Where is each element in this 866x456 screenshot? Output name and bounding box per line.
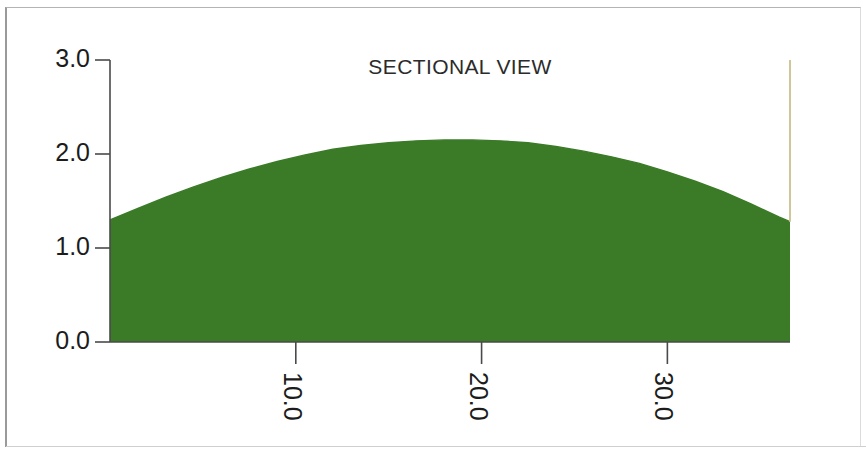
x-axis-tick-labels: 10.020.030.0 — [0, 0, 866, 456]
chart-page: SECTIONAL VIEW 0.01.02.03.0 10.020.030.0 — [0, 0, 866, 456]
x-axis-tick-label: 30.0 — [651, 372, 676, 421]
plot-area: SECTIONAL VIEW 0.01.02.03.0 10.020.030.0 — [0, 0, 866, 456]
x-axis-tick-label: 10.0 — [280, 372, 305, 421]
x-axis-tick-label: 20.0 — [466, 372, 491, 421]
